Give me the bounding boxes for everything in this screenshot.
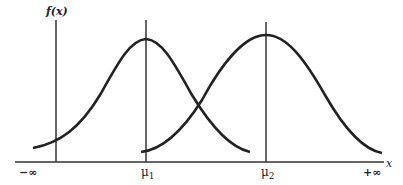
mu1-label: μ1 (141, 165, 155, 181)
curve-mu2 (141, 35, 382, 153)
normal-curves-diagram: f(x) x −∞ μ1 μ2 +∞ (0, 0, 403, 185)
y-axis-label: f(x) (45, 5, 68, 18)
curve-mu1 (33, 39, 250, 152)
neg-inf-label: −∞ (19, 166, 37, 179)
mu2-label: μ2 (261, 165, 275, 181)
x-axis-label: x (386, 157, 393, 170)
pos-inf-label: +∞ (363, 166, 381, 179)
